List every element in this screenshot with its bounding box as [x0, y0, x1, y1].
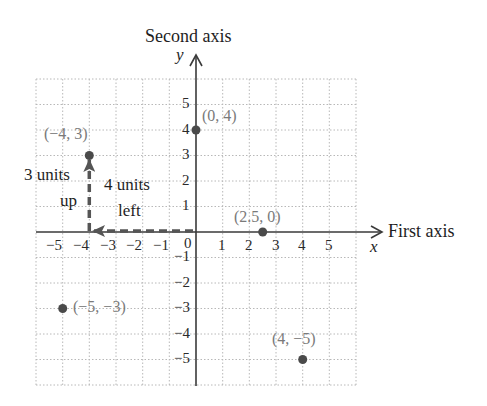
x-tick: −1: [153, 238, 169, 253]
x-tick: 5: [325, 238, 333, 253]
point-neg5-neg3: [58, 304, 67, 313]
y-tick: −3: [174, 300, 190, 315]
point-4-neg5: [298, 355, 307, 364]
point-label-4-neg5: (4, −5): [272, 331, 316, 347]
y-tick: −4: [174, 326, 190, 341]
x-tick: −4: [73, 238, 89, 253]
left-annotation-line1: 4 units: [104, 176, 150, 193]
x-tick: 3: [272, 238, 280, 253]
y-tick: 5: [182, 96, 190, 111]
x-axis-title: First axis: [388, 222, 455, 240]
point-label-neg5-neg3: (−5, −3): [73, 299, 126, 315]
up-annotation-line1: 3 units: [24, 166, 70, 183]
y-tick: 4: [182, 122, 190, 137]
point-neg4-3: [85, 151, 94, 160]
up-annotation-line2: up: [60, 192, 77, 209]
x-axis-variable: x: [370, 238, 378, 255]
y-tick: 1: [182, 198, 190, 213]
x-tick: 2: [245, 238, 253, 253]
point-label-0-4: (0, 4): [202, 108, 237, 124]
y-axis-variable: y: [176, 46, 184, 63]
y-tick: 3: [182, 147, 190, 162]
y-axis-title: Second axis: [145, 27, 231, 45]
y-tick: −2: [174, 275, 190, 290]
y-tick: −5: [174, 351, 190, 366]
y-tick: 2: [182, 173, 190, 188]
point-label-neg4-3: (−4, 3): [44, 126, 88, 142]
x-tick: 1: [218, 238, 226, 253]
x-tick: −2: [126, 238, 142, 253]
x-tick: 4: [298, 238, 306, 253]
point-0-4: [192, 126, 201, 135]
x-tick: −5: [46, 238, 62, 253]
y-tick: −1: [174, 249, 190, 264]
point-2.5-0: [258, 228, 267, 237]
left-annotation-line2: left: [118, 202, 141, 219]
x-tick: −3: [100, 238, 116, 253]
point-label-2.5-0: (2.5, 0): [234, 209, 281, 225]
